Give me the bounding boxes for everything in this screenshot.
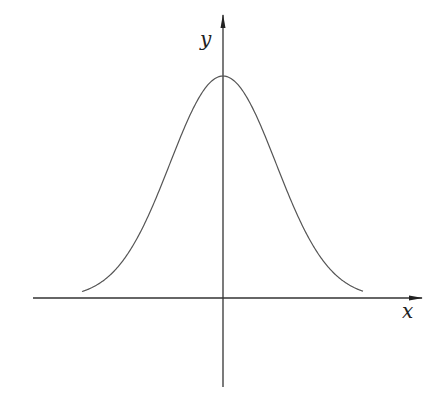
y-axis-label: y — [199, 27, 212, 51]
bell-curve-diagram: x y — [0, 0, 446, 403]
x-axis-label: x — [402, 299, 413, 323]
